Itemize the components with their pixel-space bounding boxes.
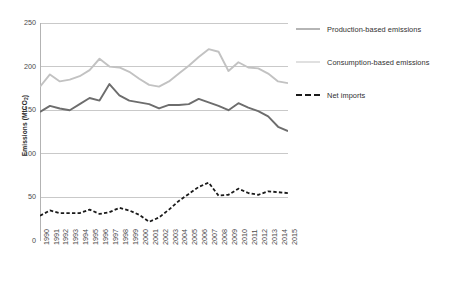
plot-area xyxy=(40,23,288,241)
x-tick-label: 2011 xyxy=(251,230,258,245)
x-tick-label: 2008 xyxy=(221,229,228,245)
x-tick-label: 1995 xyxy=(92,229,99,245)
x-tick-label: 1993 xyxy=(72,229,79,245)
y-tick-label: 0 xyxy=(6,237,36,244)
x-tick-label: 1999 xyxy=(132,229,139,245)
x-tick-label: 2010 xyxy=(241,229,248,245)
x-tick-label: 2004 xyxy=(181,229,188,245)
y-tick-label: 100 xyxy=(6,150,36,157)
x-tick-label: 2003 xyxy=(172,229,179,245)
legend-swatch-net-imports-icon xyxy=(296,90,320,100)
x-tick-label: 2002 xyxy=(162,229,169,245)
gridlines xyxy=(40,23,288,241)
chart-legend: Production-based emissions Consumption-b… xyxy=(296,23,452,122)
x-tick-label: 2013 xyxy=(271,229,278,245)
x-tick-label: 2005 xyxy=(191,229,198,245)
y-tick-label: 200 xyxy=(6,63,36,70)
x-tick-label: 1992 xyxy=(62,229,69,245)
x-tick-label: 1998 xyxy=(122,229,129,245)
series-line xyxy=(40,49,288,87)
chart-figure: Emissions (MtCO2) 050100150200250 199019… xyxy=(0,0,452,289)
y-tick-label: 250 xyxy=(6,19,36,26)
legend-swatch-consumption-icon xyxy=(296,57,320,67)
legend-item-production: Production-based emissions xyxy=(296,23,452,35)
legend-label-net-imports: Net imports xyxy=(327,91,365,100)
x-tick-label: 2006 xyxy=(201,229,208,245)
x-tick-label: 2015 xyxy=(291,229,298,245)
x-axis-tick-labels: 1990199119921993199419951996199719981999… xyxy=(40,245,288,287)
legend-item-consumption: Consumption-based emissions xyxy=(296,56,452,68)
x-tick-label: 1996 xyxy=(102,229,109,245)
x-tick-label: 1990 xyxy=(43,229,50,245)
data-series-group xyxy=(40,49,288,222)
y-tick-label: 50 xyxy=(6,193,36,200)
x-tick-label: 2009 xyxy=(231,229,238,245)
y-tick-label: 150 xyxy=(6,106,36,113)
x-tick-label: 2014 xyxy=(281,229,288,245)
x-tick-label: 2007 xyxy=(211,229,218,245)
legend-swatch-production-icon xyxy=(296,24,320,34)
x-tick-label: 1994 xyxy=(82,229,89,245)
series-line xyxy=(40,183,288,222)
legend-label-production: Production-based emissions xyxy=(327,25,421,34)
x-tick-label: 1997 xyxy=(112,229,119,245)
x-tick-label: 2012 xyxy=(261,229,268,245)
legend-item-net-imports: Net imports xyxy=(296,89,452,101)
x-tick-label: 2001 xyxy=(152,229,159,245)
y-axis-tick-labels: 050100150200250 xyxy=(4,23,36,241)
plot-svg xyxy=(40,23,288,241)
legend-label-consumption: Consumption-based emissions xyxy=(327,58,429,67)
series-line xyxy=(40,84,288,131)
x-tick-label: 1991 xyxy=(53,229,60,245)
x-tick-label: 2000 xyxy=(142,229,149,245)
